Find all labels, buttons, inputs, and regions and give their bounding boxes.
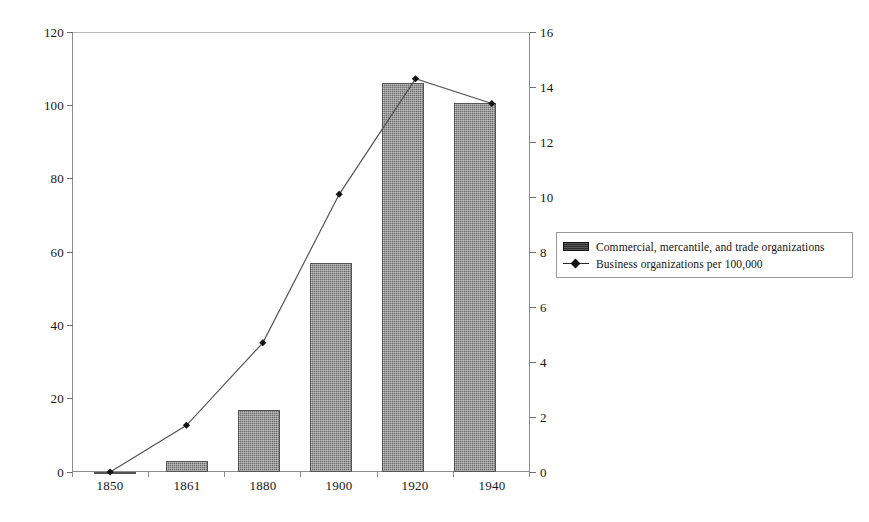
tick-x-b5 — [453, 472, 454, 477]
chart-container: 120 100 80 60 40 20 0 16 14 12 10 8 6 4 … — [0, 0, 869, 522]
y-right-tick-16: 16 — [540, 25, 580, 41]
x-tick-1880: 1880 — [228, 478, 298, 494]
y-left-tick-80: 80 — [18, 171, 64, 187]
y-right-tick-14: 14 — [540, 80, 580, 96]
x-tick-1850: 1850 — [75, 478, 145, 494]
tick-x-b2 — [224, 472, 225, 477]
legend-label-bars: Commercial, mercantile, and trade organi… — [596, 241, 825, 253]
tick-x-b3 — [300, 472, 301, 477]
y-right-tick-10: 10 — [540, 190, 580, 206]
tick-left-20 — [67, 398, 73, 399]
x-tick-1861: 1861 — [152, 478, 222, 494]
legend: Commercial, mercantile, and trade organi… — [556, 232, 853, 278]
tick-right-10 — [530, 197, 536, 198]
tick-right-6 — [530, 307, 536, 308]
tick-x-b0 — [72, 472, 73, 477]
y-right-tick-6: 6 — [540, 300, 580, 316]
legend-item-line[interactable]: Business organizations per 100,000 — [563, 255, 847, 272]
y-right-tick-4: 4 — [540, 355, 580, 371]
y-right-tick-12: 12 — [540, 135, 580, 151]
legend-label-line: Business organizations per 100,000 — [596, 258, 763, 270]
tick-left-100 — [67, 105, 73, 106]
tick-right-14 — [530, 87, 536, 88]
legend-line-marker-swatch-icon — [563, 259, 589, 268]
tick-right-2 — [530, 417, 536, 418]
y-left-tick-20: 20 — [18, 391, 64, 407]
y-left-tick-120: 120 — [18, 25, 64, 41]
y-left-tick-100: 100 — [18, 98, 64, 114]
tick-x-b6 — [529, 472, 530, 477]
tick-right-4 — [530, 362, 536, 363]
bar-1920 — [382, 83, 424, 472]
x-tick-1920: 1920 — [380, 478, 450, 494]
tick-x-b1 — [148, 472, 149, 477]
x-tick-1900: 1900 — [304, 478, 374, 494]
tick-right-8 — [530, 252, 536, 253]
bar-1940 — [454, 103, 496, 472]
tick-left-60 — [67, 252, 73, 253]
tick-left-40 — [67, 325, 73, 326]
bar-1850 — [94, 472, 136, 474]
bar-1900 — [310, 263, 352, 472]
bar-1861 — [166, 461, 208, 472]
y-right-tick-2: 2 — [540, 410, 580, 426]
legend-item-bars[interactable]: Commercial, mercantile, and trade organi… — [563, 238, 847, 255]
tick-left-120 — [67, 32, 73, 33]
tick-right-0 — [530, 472, 536, 473]
x-tick-1940: 1940 — [457, 478, 527, 494]
y-left-tick-60: 60 — [18, 245, 64, 261]
y-left-tick-40: 40 — [18, 318, 64, 334]
legend-bar-swatch-icon — [563, 242, 589, 251]
tick-left-80 — [67, 178, 73, 179]
y-right-tick-0: 0 — [540, 465, 580, 481]
y-left-tick-0: 0 — [18, 465, 64, 481]
tick-right-12 — [530, 142, 536, 143]
bar-1880 — [238, 410, 280, 472]
tick-x-b4 — [377, 472, 378, 477]
tick-right-16 — [530, 32, 536, 33]
